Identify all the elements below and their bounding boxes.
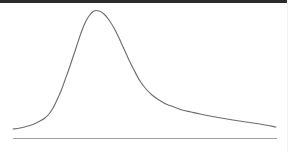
density-curve-line xyxy=(13,10,276,129)
distribution-plot xyxy=(0,0,288,152)
chart-figure: Right-skewed unimodal density curve with… xyxy=(0,0,288,152)
